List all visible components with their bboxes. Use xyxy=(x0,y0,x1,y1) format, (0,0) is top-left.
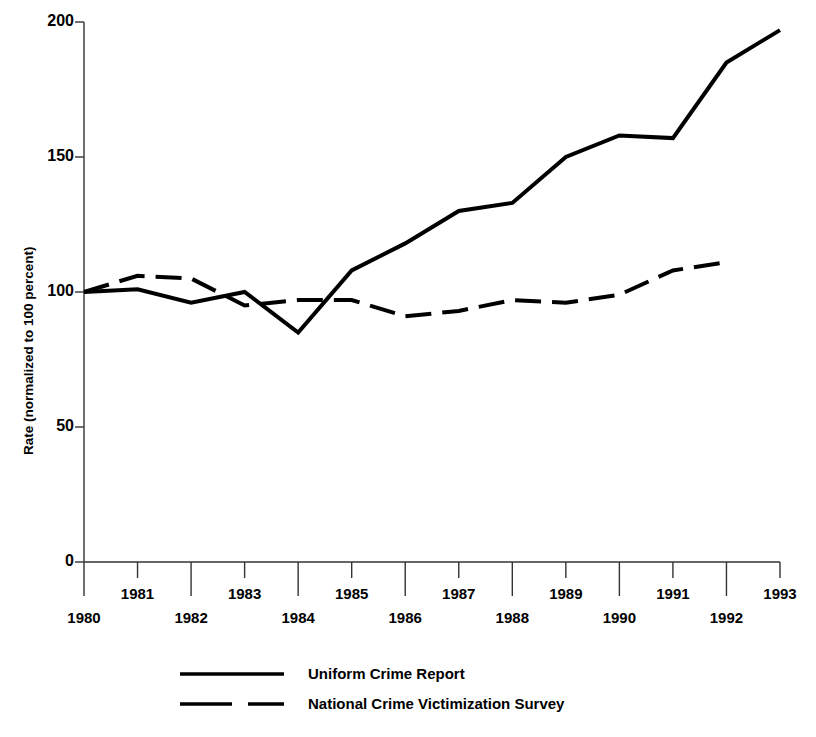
axis-lines xyxy=(84,22,780,562)
legend-swatch-2 xyxy=(180,697,284,711)
legend-label-1: Uniform Crime Report xyxy=(308,666,465,681)
tick-marks xyxy=(75,22,780,596)
series-line-1 xyxy=(84,30,780,332)
data-series-layer xyxy=(84,30,780,332)
plot-area xyxy=(0,0,816,737)
crime-rate-line-chart: Rate (normalized to 100 percent) 0501001… xyxy=(0,0,816,737)
legend-label-2: National Crime Victimization Survey xyxy=(308,696,564,711)
legend-swatch-1 xyxy=(180,667,284,681)
series-line-2 xyxy=(84,262,726,316)
